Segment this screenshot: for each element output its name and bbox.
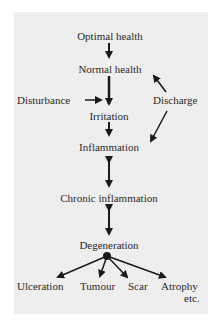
node-ulceration: Ulceration: [17, 280, 63, 292]
node-inflammation: Inflammation: [79, 141, 139, 153]
arrow-to-ulceration: [58, 256, 107, 277]
node-chronic-inflammation: Chronic inflammation: [60, 192, 157, 204]
node-normal-health: Normal health: [78, 63, 141, 75]
arrow-discharge-to-normal: [154, 76, 166, 92]
arrow-discharge-to-inflammation: [151, 111, 167, 141]
node-atrophy: Atrophy: [161, 280, 198, 292]
node-degeneration: Degeneration: [79, 239, 138, 251]
node-scar: Scar: [128, 280, 148, 292]
node-optimal-health: Optimal health: [77, 30, 143, 42]
node-etc: etc.: [184, 292, 200, 304]
node-tumour: Tumour: [80, 280, 115, 292]
arrow-to-atrophy: [107, 256, 165, 277]
node-disturbance: Disturbance: [17, 94, 70, 106]
node-irritation: Irritation: [89, 110, 128, 122]
node-discharge: Discharge: [153, 94, 197, 106]
arrow-layer: [0, 0, 218, 327]
